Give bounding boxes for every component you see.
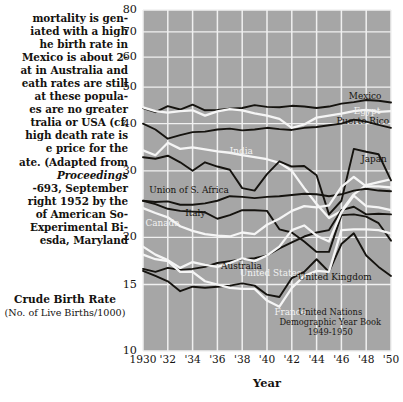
y-tick-label: 20 <box>105 231 137 242</box>
caption-line: es are no greater <box>0 103 128 116</box>
y-tick-label: 70 <box>105 26 137 37</box>
y-tick-label: 80 <box>105 4 137 15</box>
caption-line: of American So- <box>0 208 128 221</box>
chart-figure: mortality is gen-iated with a highhe bir… <box>0 0 403 402</box>
x-axis-title: Year <box>143 376 391 390</box>
caption-line: right 1952 by the <box>0 195 128 208</box>
series-label: Mexico <box>349 92 382 101</box>
series-line <box>143 233 391 297</box>
x-tick-label: '50 <box>374 354 403 365</box>
y-tick-label: 50 <box>105 81 137 92</box>
y-tick-label: 40 <box>105 118 137 129</box>
caption-line: high death rate is <box>0 129 128 142</box>
caption-line: he birth rate in <box>0 38 128 51</box>
plot-area <box>143 10 391 351</box>
caption-line: at in Australia and <box>0 64 128 77</box>
series-label: United Kingdom <box>298 273 372 282</box>
series-label: Union of S. Africa <box>149 186 229 195</box>
series-label: Egypt <box>354 107 380 116</box>
source-note-line: 1949-1950 <box>270 327 390 337</box>
y-tick-label: 60 <box>105 51 137 62</box>
y-tick-label: 15 <box>105 279 137 290</box>
series-label: United States <box>240 269 302 278</box>
y-axis-title-main: Crude Birth Rate <box>0 292 130 306</box>
series-label: Puerto Rico <box>336 117 389 126</box>
y-axis-title: Crude Birth Rate (No. of Live Births/100… <box>0 292 130 320</box>
caption-line: at these popula- <box>0 90 128 103</box>
figure-caption: mortality is gen-iated with a highhe bir… <box>0 12 128 247</box>
series-label: Canada <box>146 219 180 228</box>
series-lines <box>143 10 391 351</box>
source-note-line: United Nations <box>270 307 390 317</box>
source-note-line: Demographic Year Book <box>270 317 390 327</box>
series-label: Italy <box>185 209 205 218</box>
caption-line: -693, September <box>0 182 128 195</box>
series-label: India <box>230 147 253 156</box>
series-label: Japan <box>361 155 387 164</box>
caption-line: e price for the <box>0 142 128 155</box>
source-note: United NationsDemographic Year Book1949-… <box>270 307 390 338</box>
y-axis-title-sub: (No. of Live Births/1000) <box>0 306 130 320</box>
y-tick-label: 30 <box>105 165 137 176</box>
series-line <box>143 207 391 272</box>
